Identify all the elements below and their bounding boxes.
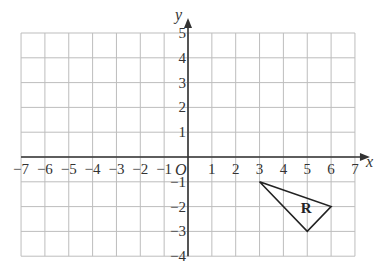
x-tick-label: −6 [37,161,53,177]
x-tick-label: 5 [304,161,312,177]
y-tick-label: 2 [179,99,187,115]
y-tick-label: 5 [179,25,187,41]
x-tick-label: −2 [132,161,148,177]
coordinate-grid: −7−6−5−4−3−2−11234567 54321−1−2−3−4 x y … [0,0,385,270]
x-tick-label: 3 [256,161,264,177]
y-tick-label: 4 [179,50,187,66]
x-tick-label: 1 [208,161,216,177]
y-tick-label: −4 [170,248,186,264]
y-axis-label: y [173,6,183,24]
x-tick-label: 4 [280,161,288,177]
x-tick-label: −5 [61,161,77,177]
x-tick-label: −7 [13,161,29,177]
triangle-r-label: R [301,200,312,216]
x-tick-label: 6 [327,161,335,177]
x-tick-label: −3 [108,161,124,177]
x-axis-label: x [365,153,373,170]
y-tick-label: 1 [179,124,187,140]
x-tick-label: 7 [351,161,359,177]
x-tick-label: −4 [85,161,101,177]
origin-label: O [175,161,187,178]
x-tick-label: 2 [232,161,240,177]
y-tick-label: −3 [170,223,186,239]
y-tick-labels: 54321−1−2−3−4 [170,25,186,264]
y-tick-label: 3 [179,75,187,91]
y-tick-label: −2 [170,199,186,215]
